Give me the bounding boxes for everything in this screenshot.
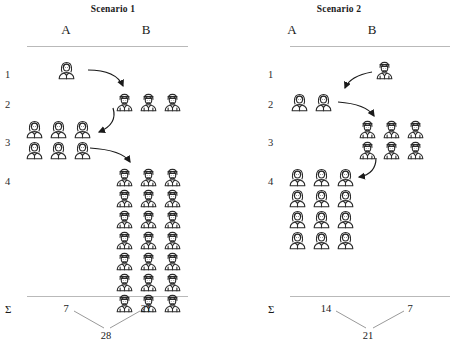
male-person-icon: [162, 188, 183, 209]
sum-value-b: 7: [390, 303, 430, 314]
arrow-row2a-to-row3b: [338, 102, 374, 116]
male-person-icon: [138, 272, 159, 293]
scenario-panel-1: Scenario 1 A B 1 2 3 4 Σ 7 21: [0, 0, 226, 354]
female-person-icon: [287, 188, 308, 209]
female-person-icon: [48, 140, 69, 161]
male-person-icon: [162, 230, 183, 251]
sum-value-total: 21: [348, 330, 388, 341]
person-group-row4-col-b: [113, 167, 183, 314]
female-person-icon: [48, 119, 69, 140]
male-person-icon: [374, 60, 395, 81]
row-label-1: 1: [5, 69, 19, 80]
male-person-icon: [162, 272, 183, 293]
column-header-a: A: [46, 22, 86, 38]
male-person-icon: [138, 188, 159, 209]
female-person-icon: [311, 167, 332, 188]
male-person-icon: [114, 167, 135, 188]
female-person-icon: [24, 140, 45, 161]
female-person-icon: [72, 140, 93, 161]
male-person-icon: [114, 251, 135, 272]
arrow-row1b-to-row2a: [345, 72, 372, 88]
male-person-icon: [138, 230, 159, 251]
female-person-icon: [287, 167, 308, 188]
row-label-4: 4: [5, 176, 19, 187]
male-person-icon: [405, 119, 426, 140]
male-person-icon: [162, 209, 183, 230]
person-group-row2-col-a: [288, 92, 334, 113]
column-header-b: B: [126, 22, 166, 38]
male-person-icon: [357, 140, 378, 161]
person-group-row2-col-b: [113, 92, 183, 113]
male-person-icon: [114, 188, 135, 209]
header-rule: [27, 46, 188, 47]
sum-value-a: 7: [46, 303, 86, 314]
column-header-a: A: [272, 22, 312, 38]
male-person-icon: [381, 119, 402, 140]
footer-rule: [290, 296, 450, 297]
person-group-row3-col-a: [23, 119, 93, 161]
male-person-icon: [357, 119, 378, 140]
female-person-icon: [311, 188, 332, 209]
arrow-row1a-to-row2b: [88, 70, 123, 86]
male-person-icon: [381, 140, 402, 161]
arrow-row3a-to-row4b: [90, 148, 130, 162]
male-person-icon: [114, 209, 135, 230]
female-person-icon: [313, 92, 334, 113]
two-scenario-figure: Scenario 1 A B 1 2 3 4 Σ 7 21: [0, 0, 452, 354]
male-person-icon: [162, 92, 183, 113]
female-person-icon: [311, 230, 332, 251]
female-person-icon: [56, 60, 77, 81]
scenario-title: Scenario 2: [226, 4, 452, 14]
female-person-icon: [24, 119, 45, 140]
row-label-3: 3: [268, 137, 282, 148]
arrow-row2b-to-row3a: [99, 108, 114, 132]
female-person-icon: [311, 209, 332, 230]
row-label-2: 2: [5, 99, 19, 110]
scenario-panel-2: Scenario 2 A B 1 2 3 4 Σ 14 7: [226, 0, 452, 354]
sum-value-b: 21: [126, 303, 166, 314]
row-label-4: 4: [268, 176, 282, 187]
male-person-icon: [138, 167, 159, 188]
male-person-icon: [114, 230, 135, 251]
female-person-icon: [72, 119, 93, 140]
male-person-icon: [138, 251, 159, 272]
female-person-icon: [335, 209, 356, 230]
female-person-icon: [335, 188, 356, 209]
sum-value-total: 28: [86, 330, 126, 341]
scenario-title: Scenario 1: [0, 4, 226, 14]
column-header-b: B: [352, 22, 392, 38]
header-rule: [290, 46, 450, 47]
male-person-icon: [138, 92, 159, 113]
male-person-icon: [405, 140, 426, 161]
row-label-2: 2: [268, 99, 282, 110]
row-label-1: 1: [268, 69, 282, 80]
male-person-icon: [114, 92, 135, 113]
person-group-row3-col-b: [356, 119, 426, 161]
person-group-row1-col-a: [55, 60, 77, 81]
male-person-icon: [162, 167, 183, 188]
sum-symbol: Σ: [5, 303, 11, 315]
male-person-icon: [114, 272, 135, 293]
female-person-icon: [335, 167, 356, 188]
person-group-row4-col-a: [286, 167, 356, 251]
female-person-icon: [289, 92, 310, 113]
person-group-row1-col-b: [373, 60, 395, 81]
sum-value-a: 14: [306, 303, 346, 314]
row-label-3: 3: [5, 137, 19, 148]
sum-symbol: Σ: [268, 303, 274, 315]
female-person-icon: [287, 209, 308, 230]
male-person-icon: [162, 251, 183, 272]
female-person-icon: [287, 230, 308, 251]
female-person-icon: [335, 230, 356, 251]
male-person-icon: [138, 209, 159, 230]
